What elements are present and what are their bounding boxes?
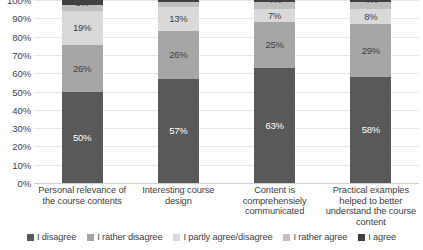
bar-segment[interactable]: 1% bbox=[254, 0, 295, 2]
bar-group: 50%26%19%3%3%57%26%13%3%1%63%25%7%4%1%58… bbox=[34, 0, 419, 183]
legend-label: I rather disagree bbox=[97, 232, 162, 242]
legend-item[interactable]: I disagree bbox=[27, 232, 76, 242]
stacked-bar-chart: 100%90%80%70%60%50%40%30%20%10%0% 50%26%… bbox=[0, 0, 423, 250]
category-axis: Personal relevance of the course content… bbox=[0, 183, 423, 227]
y-axis-tick-label: 30% bbox=[12, 123, 31, 134]
bar-segment-value-label: 57% bbox=[169, 126, 187, 136]
bar-segment[interactable]: 50% bbox=[62, 92, 103, 183]
stacked-bar[interactable]: 57%26%13%3%1% bbox=[158, 0, 199, 183]
stacked-bar[interactable]: 58%29%8%4%1% bbox=[350, 0, 391, 183]
stacked-bar[interactable]: 50%26%19%3%3% bbox=[62, 0, 103, 183]
bar-segment[interactable]: 3% bbox=[62, 0, 103, 5]
bar-segment[interactable]: 4% bbox=[350, 2, 391, 9]
legend-swatch-icon bbox=[87, 234, 94, 241]
legend-label: I agree bbox=[368, 232, 396, 242]
bar-segment[interactable]: 57% bbox=[158, 79, 199, 183]
bar-segment-value-label: 58% bbox=[362, 125, 380, 135]
y-axis-tick-label: 40% bbox=[12, 104, 31, 115]
legend-item[interactable]: I partly agree/disagree bbox=[173, 232, 272, 242]
bar-segment[interactable]: 4% bbox=[254, 2, 295, 9]
y-axis-tick-label: 20% bbox=[12, 141, 31, 152]
y-axis-tick-label: 80% bbox=[12, 31, 31, 42]
bar-segment-value-label: 29% bbox=[362, 46, 380, 56]
bar-segment[interactable]: 8% bbox=[350, 9, 391, 24]
bar-segment-value-label: 50% bbox=[73, 133, 91, 143]
plot-area: 50%26%19%3%3%57%26%13%3%1%63%25%7%4%1%58… bbox=[34, 0, 419, 183]
bar-segment[interactable]: 1% bbox=[158, 0, 199, 2]
legend: I disagreeI rather disagreeI partly agre… bbox=[0, 227, 423, 246]
category-axis-label: Interesting course design bbox=[130, 183, 226, 227]
bar-slot: 58%29%8%4%1% bbox=[323, 0, 419, 183]
category-axis-label: Content is comprehensiely communicated bbox=[227, 183, 323, 227]
y-axis: 100%90%80%70%60%50%40%30%20%10%0% bbox=[0, 0, 34, 183]
bar-segment[interactable]: 7% bbox=[254, 9, 295, 22]
legend-item[interactable]: I rather disagree bbox=[87, 232, 162, 242]
category-axis-label: Personal relevance of the course content… bbox=[34, 183, 130, 227]
legend-item[interactable]: I agree bbox=[358, 232, 396, 242]
legend-swatch-icon bbox=[283, 234, 290, 241]
bar-segment[interactable]: 13% bbox=[158, 7, 199, 31]
plot-region: 100%90%80%70%60%50%40%30%20%10%0% 50%26%… bbox=[0, 0, 423, 183]
bar-segment[interactable]: 3% bbox=[158, 2, 199, 7]
bar-segment-value-label: 26% bbox=[169, 50, 187, 60]
bar-segment[interactable]: 63% bbox=[254, 68, 295, 183]
bar-segment[interactable]: 29% bbox=[350, 24, 391, 77]
bar-segment[interactable]: 3% bbox=[62, 5, 103, 10]
bar-segment-value-label: 13% bbox=[169, 14, 187, 24]
legend-swatch-icon bbox=[358, 234, 365, 241]
y-axis-tick-label: 70% bbox=[12, 49, 31, 60]
y-axis-tick-label: 90% bbox=[12, 13, 31, 24]
y-axis-tick-label: 60% bbox=[12, 68, 31, 79]
bar-segment[interactable]: 26% bbox=[158, 31, 199, 79]
bar-segment-value-label: 26% bbox=[73, 64, 91, 74]
y-axis-tick-label: 10% bbox=[12, 159, 31, 170]
bar-segment-value-label: 19% bbox=[73, 23, 91, 33]
legend-label: I rather agree bbox=[293, 232, 347, 242]
legend-swatch-icon bbox=[173, 234, 180, 241]
stacked-bar[interactable]: 63%25%7%4%1% bbox=[254, 0, 295, 183]
bar-segment[interactable]: 58% bbox=[350, 77, 391, 183]
legend-item[interactable]: I rather agree bbox=[283, 232, 347, 242]
bar-segment[interactable]: 26% bbox=[62, 45, 103, 92]
legend-label: I partly agree/disagree bbox=[183, 232, 272, 242]
category-axis-label: Practical examples helped to better unde… bbox=[323, 183, 419, 227]
bar-slot: 50%26%19%3%3% bbox=[34, 0, 130, 183]
y-axis-tick-label: 100% bbox=[7, 0, 31, 6]
bar-segment-value-label: 8% bbox=[364, 12, 377, 22]
bar-segment-value-label: 25% bbox=[265, 40, 283, 50]
bar-segment[interactable]: 1% bbox=[350, 0, 391, 2]
bar-segment-value-label: 7% bbox=[268, 11, 281, 21]
legend-swatch-icon bbox=[27, 234, 34, 241]
y-axis-tick-label: 0% bbox=[17, 178, 31, 189]
bar-segment-value-label: 63% bbox=[265, 121, 283, 131]
bar-slot: 63%25%7%4%1% bbox=[227, 0, 323, 183]
legend-label: I disagree bbox=[37, 232, 76, 242]
bar-slot: 57%26%13%3%1% bbox=[130, 0, 226, 183]
bar-segment[interactable]: 19% bbox=[62, 11, 103, 45]
bar-segment[interactable]: 25% bbox=[254, 22, 295, 68]
y-axis-tick-label: 50% bbox=[12, 86, 31, 97]
